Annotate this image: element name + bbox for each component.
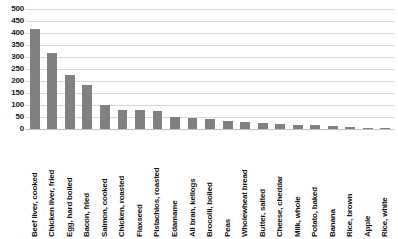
bar-slot bbox=[342, 9, 360, 129]
bar[interactable] bbox=[30, 29, 40, 129]
x-axis-slot: Brocolli, boiled bbox=[201, 131, 219, 237]
x-axis-tick-label: Cheese, cheddar bbox=[276, 176, 284, 237]
y-axis-tick-label: 150 bbox=[0, 89, 24, 97]
x-axis-tick-label: Chicken, roasted bbox=[118, 176, 126, 237]
bar[interactable] bbox=[363, 128, 373, 129]
x-axis-tick-label: Bacon, fried bbox=[83, 193, 91, 237]
x-axis-slot: Egg, hard boiled bbox=[61, 131, 79, 237]
y-axis-tick-label: 0 bbox=[0, 125, 24, 133]
x-axis-slot: Rice, white bbox=[377, 131, 395, 237]
x-axis-slot: Chicken, roasted bbox=[114, 131, 132, 237]
x-axis-slot: Peas bbox=[219, 131, 237, 237]
y-axis-tick-label: 400 bbox=[0, 29, 24, 37]
x-axis-slot: Salmon, cooked bbox=[96, 131, 114, 237]
y-axis-tick-label: 100 bbox=[0, 101, 24, 109]
y-axis: 500450400350300250200150100500 bbox=[0, 0, 24, 136]
x-axis-tick-label: Wholewheat bread bbox=[241, 170, 249, 237]
y-axis-tick-label: 450 bbox=[0, 17, 24, 25]
bar-slot bbox=[377, 9, 395, 129]
bar-slot bbox=[79, 9, 97, 129]
plot-area bbox=[26, 9, 394, 129]
y-axis-tick-label: 50 bbox=[0, 113, 24, 121]
x-axis-tick-label: Butter, salted bbox=[259, 189, 267, 237]
x-axis-slot: All bran, kellogs bbox=[184, 131, 202, 237]
bar-chart: 500450400350300250200150100500 Beef live… bbox=[0, 0, 398, 239]
x-axis-tick-label: Potato, baked bbox=[311, 187, 319, 237]
y-axis-tick-label: 350 bbox=[0, 41, 24, 49]
x-axis: Beef liver, cookedChicken liver, friedEg… bbox=[26, 131, 394, 237]
bar-slot bbox=[44, 9, 62, 129]
x-axis-slot: Bacon, fried bbox=[79, 131, 97, 237]
x-axis-tick-label: Edamame bbox=[171, 201, 179, 237]
bar-slot bbox=[254, 9, 272, 129]
x-axis-tick-label: Banana bbox=[329, 209, 337, 237]
bar-slot bbox=[26, 9, 44, 129]
x-axis-slot: Banana bbox=[324, 131, 342, 237]
gridline bbox=[26, 129, 394, 130]
x-axis-tick-label: Chicken liver, fried bbox=[48, 170, 56, 237]
bar[interactable] bbox=[100, 105, 110, 129]
x-axis-slot: Apple bbox=[359, 131, 377, 237]
bar-slot bbox=[271, 9, 289, 129]
x-axis-tick-label: Beef liver, cooked bbox=[31, 173, 39, 237]
bar[interactable] bbox=[82, 85, 92, 129]
bar[interactable] bbox=[153, 111, 163, 129]
bar[interactable] bbox=[275, 124, 285, 129]
bar[interactable] bbox=[240, 122, 250, 129]
bar[interactable] bbox=[258, 123, 268, 129]
y-axis-tick-label: 500 bbox=[0, 5, 24, 13]
bar-slot bbox=[289, 9, 307, 129]
bar[interactable] bbox=[380, 128, 390, 129]
x-axis-slot: Flaxseed bbox=[131, 131, 149, 237]
bar[interactable] bbox=[170, 117, 180, 129]
x-axis-slot: Milk, whole bbox=[289, 131, 307, 237]
x-axis-tick-label: All bran, kellogs bbox=[189, 179, 197, 237]
bar[interactable] bbox=[310, 125, 320, 129]
bar[interactable] bbox=[65, 75, 75, 129]
bar[interactable] bbox=[205, 119, 215, 129]
bar[interactable] bbox=[345, 127, 355, 129]
x-axis-tick-label: Brocolli, boiled bbox=[206, 182, 214, 237]
bar-slot bbox=[184, 9, 202, 129]
bar-slot bbox=[201, 9, 219, 129]
bar[interactable] bbox=[223, 121, 233, 129]
bar[interactable] bbox=[188, 118, 198, 129]
bar-slot bbox=[324, 9, 342, 129]
x-axis-tick-label: Apple bbox=[364, 216, 372, 237]
x-axis-slot: Chicken liver, fried bbox=[44, 131, 62, 237]
bar[interactable] bbox=[47, 53, 57, 129]
x-axis-tick-label: Egg, hard boiled bbox=[66, 178, 74, 237]
bar-slot bbox=[219, 9, 237, 129]
bar-slot bbox=[114, 9, 132, 129]
x-axis-tick-label: Rice, brown bbox=[346, 194, 354, 237]
x-axis-slot: Rice, brown bbox=[342, 131, 360, 237]
x-axis-slot: Butter, salted bbox=[254, 131, 272, 237]
x-axis-tick-label: Rice, white bbox=[381, 197, 389, 237]
x-axis-tick-label: Salmon, cooked bbox=[101, 178, 109, 237]
bar[interactable] bbox=[118, 110, 128, 129]
bar-slot bbox=[236, 9, 254, 129]
y-axis-tick-label: 300 bbox=[0, 53, 24, 61]
x-axis-slot: Edamame bbox=[166, 131, 184, 237]
bar-slot bbox=[166, 9, 184, 129]
bar-slot bbox=[149, 9, 167, 129]
bar-slot bbox=[359, 9, 377, 129]
x-axis-slot: Cheese, cheddar bbox=[271, 131, 289, 237]
bar-slot bbox=[131, 9, 149, 129]
y-axis-tick-label: 250 bbox=[0, 65, 24, 73]
x-axis-tick-label: Milk, whole bbox=[294, 197, 302, 237]
x-axis-tick-label: Pistachios, roasted bbox=[153, 167, 161, 237]
x-axis-slot: Wholewheat bread bbox=[236, 131, 254, 237]
bar-slot bbox=[96, 9, 114, 129]
bar-slot bbox=[61, 9, 79, 129]
x-axis-tick-label: Flaxseed bbox=[136, 204, 144, 237]
bar[interactable] bbox=[135, 110, 145, 129]
y-axis-tick-label: 200 bbox=[0, 77, 24, 85]
x-axis-slot: Potato, baked bbox=[307, 131, 325, 237]
x-axis-slot: Beef liver, cooked bbox=[26, 131, 44, 237]
x-axis-slot: Pistachios, roasted bbox=[149, 131, 167, 237]
bar-series bbox=[26, 9, 394, 129]
bar[interactable] bbox=[293, 125, 303, 129]
x-axis-tick-label: Peas bbox=[224, 219, 232, 237]
bar[interactable] bbox=[328, 126, 338, 129]
